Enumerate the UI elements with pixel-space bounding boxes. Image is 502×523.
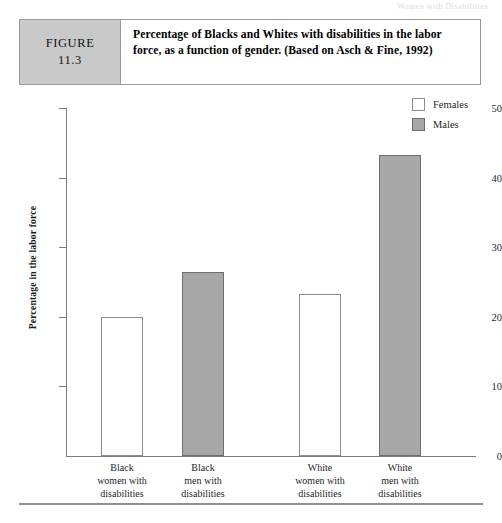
bar-black-men [182,272,224,456]
x-label-white-men-line-3: disabilities [355,488,445,501]
x-label-black-men: Black men with disabilities [158,462,248,500]
legend-swatch-males-icon [412,118,425,131]
x-label-white-men: White men with disabilities [355,462,445,500]
x-label-black-women-line-2: women with [77,475,167,488]
x-label-black-men-line-1: Black [158,462,248,475]
x-label-black-women: Black women with disabilities [77,462,167,500]
y-tick-label-20: 20 [454,311,502,322]
bar-white-men [379,155,421,456]
bar-black-women [101,317,143,456]
figure-caption-text: Percentage of Blacks and Whites with dis… [121,20,480,84]
x-label-white-men-line-1: White [355,462,445,475]
y-tick-label-10: 10 [454,381,502,392]
y-tick-label-30: 30 [454,242,502,253]
y-tick-10 [59,386,67,387]
x-label-black-men-line-2: men with [158,475,248,488]
x-label-white-women-line-3: disabilities [275,488,365,501]
y-tick-label-50: 50 [454,103,502,114]
x-label-white-women-line-2: women with [275,475,365,488]
y-tick-label-40: 40 [454,172,502,183]
figure-tag-line-1: FIGURE [46,35,95,52]
x-axis-line [66,456,476,457]
x-label-white-women-line-1: White [275,462,365,475]
y-tick-30 [59,247,67,248]
y-tick-label-0: 0 [454,451,502,462]
x-label-white-men-line-2: men with [355,475,445,488]
running-head: Women with Disabilities [397,2,488,11]
legend-item-males: Males [412,118,468,131]
y-axis-line [66,108,67,457]
y-tick-20 [59,317,67,318]
x-label-black-men-line-3: disabilities [158,488,248,501]
x-label-black-women-line-3: disabilities [77,488,167,501]
x-label-white-women: White women with disabilities [275,462,365,500]
figure-tag-line-2: 11.3 [58,52,82,69]
figure-number-tag: FIGURE 11.3 [20,20,121,84]
bar-chart: Females Males Percentage in the labor fo… [0,92,502,502]
y-axis-title: Percentage in the labor force [27,178,38,358]
legend-label-males: Males [433,119,459,130]
bar-white-women [299,294,341,456]
y-tick-50 [59,108,67,109]
legend-swatch-females-icon [412,98,425,111]
x-label-black-women-line-1: Black [77,462,167,475]
page-bottom-rule [19,503,483,505]
y-tick-40 [59,178,67,179]
figure-caption-box: FIGURE 11.3 Percentage of Blacks and Whi… [19,19,481,85]
